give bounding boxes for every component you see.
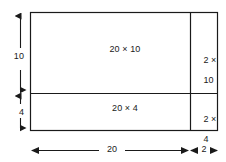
rectangle-partition-diagram: 20 × 10 20 × 4 2 × 10 2 × 4 10 4 20 2 <box>0 0 226 162</box>
dimension-label-bottom-right: 2 <box>198 144 210 154</box>
cell-label-bottom-right-line1: 2 × <box>203 114 216 124</box>
cell-label-top-right: 2 × 10 <box>193 45 217 95</box>
cell-label-top-right-line1: 2 × <box>203 55 216 65</box>
cell-label-top-right-line2: 10 <box>203 75 213 85</box>
dimension-label-bottom-main: 20 <box>101 144 123 154</box>
dimension-label-left-lower: 4 <box>8 107 24 117</box>
cell-label-bottom-right-line2: 4 <box>203 134 208 144</box>
dimension-label-left-upper: 10 <box>8 51 24 61</box>
cell-label-bottom-left: 20 × 4 <box>70 103 180 113</box>
cell-label-top-left: 20 × 10 <box>70 44 180 54</box>
